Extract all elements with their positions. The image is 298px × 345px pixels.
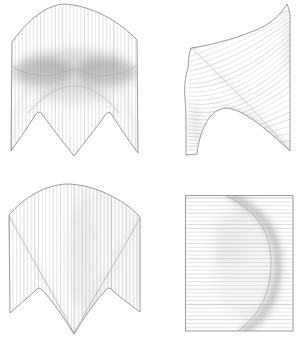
- ruling-line: [191, 10, 289, 50]
- surface-views-svg: [0, 0, 298, 345]
- shading-blob: [70, 180, 94, 320]
- ruling-line: [189, 61, 290, 104]
- surface-views-figure: [0, 0, 298, 345]
- panel-top-view: [186, 196, 294, 332]
- panel-front-view-shaded: [10, 0, 138, 160]
- panel-front-view-creased: [9, 180, 148, 340]
- shading-band: [195, 51, 289, 149]
- ruling-line: [188, 99, 290, 127]
- shading-blob: [210, 210, 246, 270]
- ruling-line: [187, 148, 290, 150]
- ruling-line: [187, 141, 290, 147]
- ruling-line: [191, 15, 290, 62]
- ruling-line: [190, 26, 289, 76]
- ruling-line: [188, 105, 290, 130]
- panel-side-view: [185, 4, 291, 155]
- ruling-line: [190, 22, 289, 71]
- shading-band: [11, 88, 26, 148]
- shading-blob: [190, 103, 202, 147]
